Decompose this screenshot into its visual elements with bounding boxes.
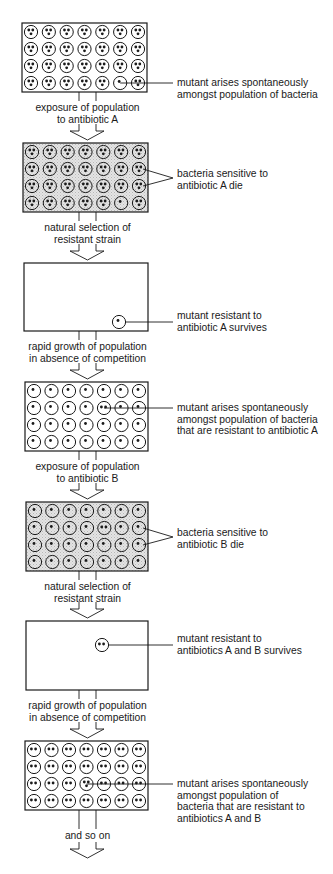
nucleus-dot: [67, 80, 70, 83]
nucleus-dot: [46, 183, 49, 186]
nucleus-dot: [67, 29, 70, 32]
nucleus-dot: [134, 46, 137, 49]
nucleus-dot: [102, 388, 105, 391]
nucleus-dot: [46, 166, 49, 169]
nucleus-dot: [100, 799, 103, 802]
nucleus-dot: [52, 765, 55, 768]
nucleus-dot: [48, 748, 51, 751]
nucleus-dot: [137, 405, 140, 408]
nucleus-dot: [83, 49, 86, 52]
nucleus-dot: [101, 83, 104, 86]
nucleus-dot: [84, 422, 87, 425]
transition-label-line: resistant strain: [8, 593, 168, 605]
nucleus-dot: [81, 80, 84, 83]
nucleus-dot: [45, 63, 48, 66]
antibiotic-resistance-diagram: [0, 0, 333, 874]
stage-dish-5: [26, 502, 173, 571]
transition-label-line: rapid growth of population: [8, 341, 168, 353]
transition-label: and so on: [8, 830, 168, 842]
down-arrow-icon: [70, 722, 104, 738]
nucleus-dot: [120, 152, 123, 155]
callout-label-line: antibiotics A and B: [177, 813, 308, 825]
callout-label: mutant arises spontaneouslyamongst popul…: [177, 778, 308, 824]
nucleus-dot: [49, 422, 52, 425]
nucleus-dot: [138, 152, 141, 155]
nucleus-dot: [33, 525, 36, 528]
nucleus-dot: [48, 152, 51, 155]
nucleus-dot: [105, 526, 108, 529]
nucleus-dot: [100, 200, 103, 203]
nucleus-dot: [101, 32, 104, 35]
nucleus-dot: [100, 183, 103, 186]
nucleus-dot: [50, 166, 53, 169]
nucleus-dot: [81, 29, 84, 32]
nucleus-dot: [135, 166, 138, 169]
nucleus-dot: [100, 149, 103, 152]
nucleus-dot: [47, 49, 50, 52]
nucleus-dot: [119, 66, 122, 69]
nucleus-dot: [119, 49, 122, 52]
nucleus-dot: [83, 781, 86, 784]
nucleus-dot: [84, 388, 87, 391]
nucleus-dot: [64, 166, 67, 169]
nucleus-dot: [103, 63, 106, 66]
nucleus-dot: [63, 46, 66, 49]
nucleus-dot: [28, 200, 31, 203]
nucleus-dot: [87, 799, 90, 802]
transition-label: exposure of populationto antibiotic B: [8, 461, 168, 484]
nucleus-dot: [83, 799, 86, 802]
callout-label-line: mutant arises spontaneously: [177, 402, 318, 414]
nucleus-dot: [31, 186, 34, 189]
callout-label: mutant arises spontaneouslyamongst popul…: [177, 77, 318, 100]
nucleus-dot: [32, 388, 35, 391]
nucleus-dot: [120, 169, 123, 172]
nucleus-dot: [102, 203, 105, 206]
nucleus-dot: [119, 508, 122, 511]
nucleus-dot: [134, 80, 137, 83]
nucleus-dot: [63, 29, 66, 32]
stage-dish-1: [22, 23, 173, 92]
nucleus-dot: [65, 83, 68, 86]
callout-label-line: bacteria that are resistant to: [177, 801, 308, 813]
nucleus-dot: [31, 80, 34, 83]
nucleus-dot: [64, 200, 67, 203]
nucleus-dot: [69, 782, 72, 785]
nucleus-dot: [30, 765, 33, 768]
nucleus-dot: [49, 388, 52, 391]
nucleus-dot: [67, 559, 70, 562]
nucleus-dot: [139, 799, 142, 802]
nucleus-dot: [104, 149, 107, 152]
nucleus-dot: [86, 183, 89, 186]
callout-label: mutant resistant toantibiotics A and B s…: [177, 633, 302, 656]
nucleus-dot: [65, 49, 68, 52]
nucleus-dot: [65, 782, 68, 785]
nucleus-dot: [68, 149, 71, 152]
nucleus-dot: [49, 439, 52, 442]
nucleus-dot: [139, 748, 142, 751]
nucleus-dot: [118, 80, 121, 83]
nucleus-dot: [134, 29, 137, 32]
nucleus-dot: [50, 559, 53, 562]
nucleus-dot: [64, 149, 67, 152]
nucleus-dot: [68, 183, 71, 186]
nucleus-dot: [83, 32, 86, 35]
nucleus-dot: [30, 32, 33, 35]
transition-label-line: and so on: [8, 830, 168, 842]
nucleus-dot: [85, 542, 88, 545]
nucleus-dot: [48, 186, 51, 189]
down-arrow-icon: [70, 363, 104, 379]
nucleus-dot: [85, 525, 88, 528]
nucleus-dot: [27, 63, 30, 66]
nucleus-dot: [102, 643, 105, 646]
nucleus-dot: [135, 748, 138, 751]
nucleus-dot: [85, 559, 88, 562]
nucleus-dot: [69, 765, 72, 768]
nucleus-dot: [65, 748, 68, 751]
nucleus-dot: [86, 200, 89, 203]
transition-label: rapid growth of populationin absence of …: [8, 341, 168, 364]
callout-label-line: mutant resistant to: [177, 633, 302, 645]
nucleus-dot: [50, 542, 53, 545]
nucleus-dot: [101, 66, 104, 69]
nucleus-dot: [121, 29, 124, 32]
nucleus-dot: [84, 203, 87, 206]
